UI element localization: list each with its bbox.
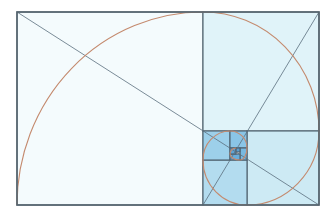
- square-s4: [203, 160, 247, 205]
- golden-ratio-diagram: [0, 0, 335, 213]
- square-s2: [203, 12, 319, 131]
- golden-spiral-svg: [0, 0, 335, 213]
- square-s1: [17, 12, 203, 205]
- square-s3: [247, 131, 319, 205]
